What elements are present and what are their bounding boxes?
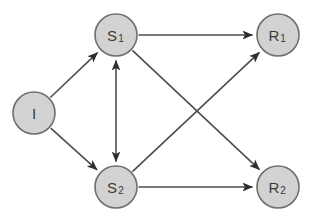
edge-i-s1	[50, 53, 97, 98]
node-circle-r1	[257, 14, 299, 56]
edge-s1-r2	[132, 50, 259, 169]
edge-i-s2	[51, 128, 97, 170]
node-circle-s2	[95, 166, 137, 208]
node-circle-r2	[257, 166, 299, 208]
edge-s2-r1	[132, 52, 259, 171]
node-circle-i	[13, 92, 55, 134]
node-r1[interactable]: R1	[257, 14, 299, 56]
network-diagram: IS1S2R1R2	[0, 0, 309, 217]
node-r2[interactable]: R2	[257, 166, 299, 208]
node-i[interactable]: I	[13, 92, 55, 134]
node-circle-s1	[95, 14, 137, 56]
graph-canvas: IS1S2R1R2	[0, 0, 309, 217]
nodes-layer: IS1S2R1R2	[13, 14, 299, 208]
edges-layer	[50, 35, 259, 187]
node-s1[interactable]: S1	[95, 14, 137, 56]
node-s2[interactable]: S2	[95, 166, 137, 208]
